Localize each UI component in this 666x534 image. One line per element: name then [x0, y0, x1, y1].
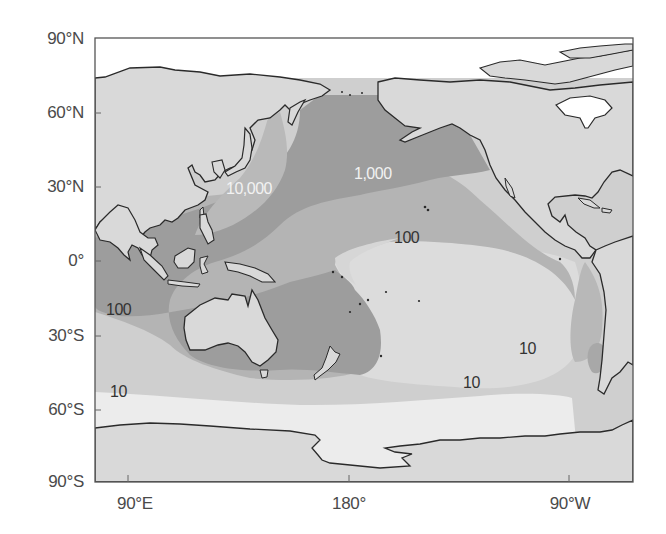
contour-label-100-pacific: 100 [394, 229, 419, 247]
contour-label-10000: 10,000 [226, 180, 272, 198]
map-figure: 90°N 60°N 30°N 0° 30°S 60°S 90°S 90°E 18… [0, 0, 666, 534]
y-tick-90n: 90°N [4, 29, 84, 49]
contour-label-10-indian: 10 [110, 383, 127, 401]
y-tick-60s: 60°S [4, 400, 84, 420]
land-tasmania [260, 370, 268, 378]
contour-label-100-indian: 100 [106, 301, 131, 319]
x-tick-90e: 90°E [95, 494, 175, 514]
x-tick-90w: 90°W [530, 494, 610, 514]
y-tick-0: 0° [4, 251, 84, 271]
y-tick-30n: 30°N [4, 177, 84, 197]
contour-label-10-south-pacific: 10 [463, 374, 480, 392]
contour-label-10-se-pacific: 10 [519, 340, 536, 358]
y-tick-30s: 30°S [4, 326, 84, 346]
y-tick-60n: 60°N [4, 103, 84, 123]
x-tick-180: 180° [309, 494, 389, 514]
contour-label-1000: 1,000 [354, 165, 392, 183]
y-tick-90s: 90°S [4, 472, 84, 492]
map-canvas [0, 0, 666, 534]
